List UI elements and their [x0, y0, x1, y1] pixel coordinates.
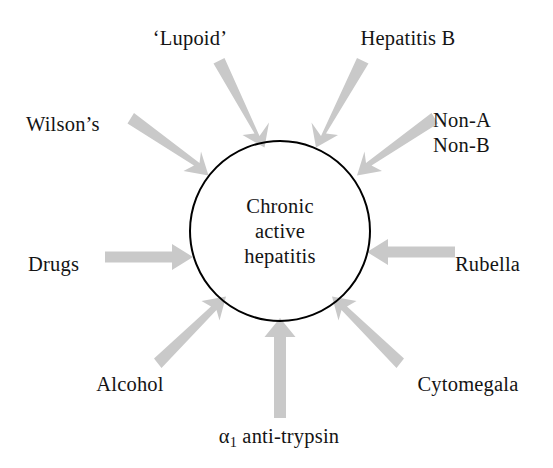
arrow-hepatitis-b [312, 58, 369, 148]
arrow-cytomegala [332, 297, 404, 369]
arrow-rubella [367, 239, 455, 265]
arrow-a1-antitrypsin [265, 318, 296, 418]
center-node-label: Chronic active hepatitis [244, 194, 315, 269]
cause-label-drugs: Drugs [28, 252, 108, 277]
center-node-circle: Chronic active hepatitis [189, 140, 371, 322]
arrow-alcohol [154, 297, 226, 369]
cause-label-wilsons: Wilson’s [26, 112, 146, 137]
cause-label-a1-antitrypsin: α1 anti-trypsin [196, 424, 362, 451]
alpha-subscript: 1 [230, 434, 237, 450]
arrow-lupoid [214, 58, 270, 148]
antitrypsin-text: anti-trypsin [237, 425, 339, 447]
cause-label-rubella: Rubella [455, 252, 551, 277]
arrow-non-a-non-b [357, 113, 438, 176]
cause-label-hepatitis-b: Hepatitis B [333, 26, 483, 51]
chronic-active-hepatitis-diagram: Chronic active hepatitis ‘Lupoid’ Hepati… [0, 0, 553, 468]
cause-label-lupoid: ‘Lupoid’ [130, 26, 250, 51]
arrow-drugs [105, 244, 193, 270]
cause-label-alcohol: Alcohol [78, 372, 182, 397]
alpha-glyph: α [219, 425, 230, 447]
cause-label-non-a-non-b: Non-A Non-B [433, 108, 543, 157]
cause-label-cytomegala: Cytomegala [393, 372, 543, 397]
